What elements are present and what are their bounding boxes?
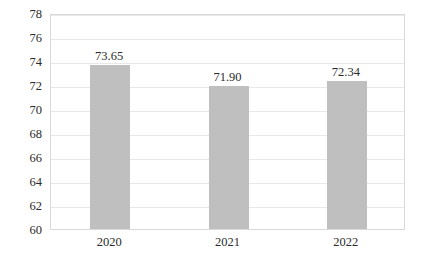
y-axis-tick-label: 74 — [8, 56, 42, 69]
x-axis-tick-label: 2022 — [333, 236, 358, 249]
bar-value-label: 71.90 — [213, 71, 241, 84]
bar — [327, 81, 367, 229]
y-axis-tick-label: 70 — [8, 104, 42, 117]
plot-area — [50, 14, 405, 230]
x-axis-tick-label: 2020 — [97, 236, 122, 249]
y-axis-tick-label: 64 — [8, 176, 42, 189]
bar-value-label: 73.65 — [95, 50, 123, 63]
bar-value-label: 72.34 — [332, 66, 360, 79]
bar — [90, 65, 130, 229]
bar-chart: 78767472706866646260 73.6571.9072.34 202… — [0, 0, 424, 261]
bar — [209, 86, 249, 229]
y-axis-tick-label: 72 — [8, 80, 42, 93]
y-axis-tick-label: 60 — [8, 224, 42, 237]
gridline — [51, 15, 404, 16]
y-axis-tick-label: 68 — [8, 128, 42, 141]
y-axis-tick-label: 76 — [8, 32, 42, 45]
gridline — [51, 39, 404, 40]
x-axis-tick-label: 2021 — [215, 236, 240, 249]
y-axis-tick-label: 66 — [8, 152, 42, 165]
y-axis-tick-label: 62 — [8, 200, 42, 213]
y-axis-tick-label: 78 — [8, 8, 42, 21]
